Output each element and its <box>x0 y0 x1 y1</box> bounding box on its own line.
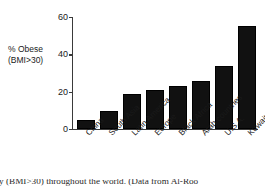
bar <box>238 26 256 129</box>
figure-caption-text: ity (BMI>30) throughout the world. (Data… <box>0 179 198 186</box>
figure-caption: ity (BMI>30) throughout the world. (Data… <box>0 179 265 188</box>
obesity-bar-chart-figure: % Obese (BMI>30) 0204060 ChinaSouth Asia… <box>0 0 265 188</box>
y-tick-label: 20 <box>58 87 68 96</box>
y-tick-label: 40 <box>58 50 68 59</box>
y-tick-mark <box>69 129 74 130</box>
y-tick-label: 60 <box>58 13 68 22</box>
y-tick-label: 0 <box>63 125 68 134</box>
y-axis-title-line1: % Obese <box>8 44 43 54</box>
x-axis-tick-labels: ChinaSouth AsiaLatin AmericaEuropeBlack … <box>72 131 265 177</box>
y-axis-title-line2: (BMI>30) <box>8 55 64 66</box>
y-axis-title: % Obese (BMI>30) <box>8 44 64 66</box>
